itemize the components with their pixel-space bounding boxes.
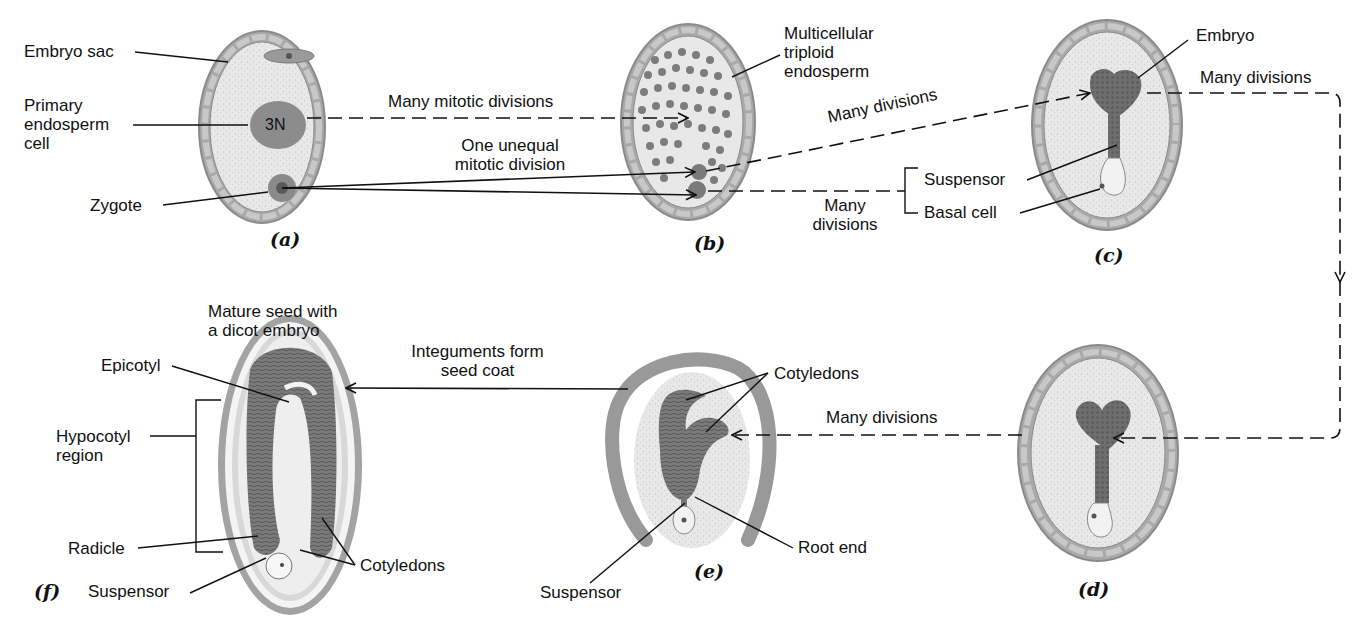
label-root-end: Root end bbox=[798, 538, 867, 557]
panel-label-b: (b) bbox=[694, 232, 725, 254]
label-suspensor-e: Suspensor bbox=[540, 583, 621, 602]
label-radicle: Radicle bbox=[68, 539, 125, 558]
label-many-mitotic-divisions: Many mitotic divisions bbox=[388, 92, 553, 111]
panel-label-d: (d) bbox=[1078, 578, 1109, 600]
label-many-divisions-c-to-d: Many divisions bbox=[1200, 68, 1312, 87]
label-3n: 3N bbox=[265, 115, 285, 134]
stage-e-torpedo-embryo bbox=[612, 359, 769, 550]
label-suspensor-f: Suspensor bbox=[88, 582, 169, 601]
label-primary-endosperm-cell: Primary endosperm cell bbox=[24, 96, 109, 153]
panel-label-f: (f) bbox=[34, 580, 60, 602]
label-basal-cell: Basal cell bbox=[924, 203, 997, 222]
stage-a-embryo-sac bbox=[199, 31, 325, 223]
label-one-unequal-mitotic-division: One unequal mitotic division bbox=[420, 136, 600, 174]
panel-label-a: (a) bbox=[270, 228, 300, 250]
label-many-divisions-d-to-e: Many divisions bbox=[826, 408, 938, 427]
stage-d-heart-embryo bbox=[1018, 345, 1178, 561]
label-epicotyl: Epicotyl bbox=[101, 356, 161, 375]
panel-label-c: (c) bbox=[1094, 244, 1124, 266]
label-hypocotyl-region: Hypocotyl region bbox=[56, 427, 131, 465]
label-embryo: Embryo bbox=[1196, 26, 1255, 45]
label-cotyledons-f: Cotyledons bbox=[360, 556, 445, 575]
stage-c-early-embryo bbox=[1032, 20, 1182, 230]
label-many-divisions-basal: Many divisions bbox=[800, 196, 890, 234]
label-suspensor-c: Suspensor bbox=[924, 170, 1005, 189]
label-mature-seed: Mature seed with a dicot embryo bbox=[208, 302, 337, 340]
label-integuments-form-seed-coat: Integuments form seed coat bbox=[395, 342, 560, 380]
panel-label-e: (e) bbox=[694, 560, 724, 582]
label-cotyledons-e: Cotyledons bbox=[774, 364, 859, 383]
embryo-development-diagram bbox=[0, 0, 1367, 635]
label-embryo-sac: Embryo sac bbox=[24, 42, 114, 61]
label-multicellular-triploid-endosperm: Multicellular triploid endosperm bbox=[784, 24, 874, 81]
label-zygote: Zygote bbox=[90, 196, 142, 215]
